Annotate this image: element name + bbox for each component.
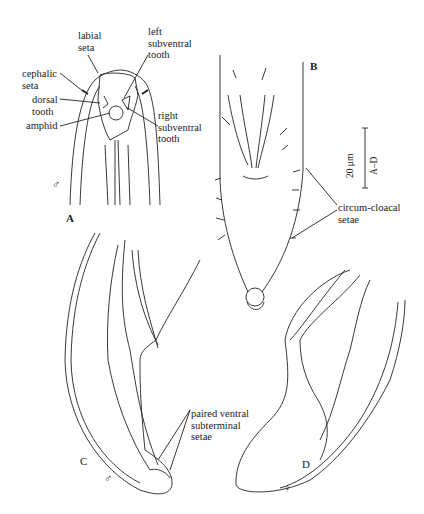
label-line: seta — [22, 80, 57, 92]
label-line: tooth — [32, 106, 58, 118]
label-right-subventral-tooth: right subventral tooth — [158, 110, 202, 145]
label-line: seta — [78, 42, 101, 54]
label-line: tooth — [158, 133, 202, 145]
male-symbol-a: ♂ — [52, 178, 60, 190]
label-paired-ventral-subterminal-setae: paired ventral subterminal setae — [191, 408, 249, 443]
label-line: left — [148, 26, 192, 38]
label-line: cephalic — [22, 68, 57, 80]
female-symbol-d: ♀ — [283, 482, 291, 494]
label-line: paired ventral — [191, 408, 249, 420]
label-circum-cloacal-setae: circum-cloacal setae — [338, 202, 400, 225]
label-line: tooth — [148, 49, 192, 61]
label-line: dorsal — [32, 94, 58, 106]
label-line: subventral — [148, 38, 192, 50]
label-line: subventral — [158, 122, 202, 134]
panel-a-head-drawing — [60, 55, 160, 205]
panel-label-c: C — [80, 455, 87, 467]
label-line: right — [158, 110, 202, 122]
label-dorsal-tooth: dorsal tooth — [32, 94, 58, 117]
scale-bar-range: A–D — [369, 157, 379, 175]
label-line: labial — [78, 30, 101, 42]
label-line: subterminal — [191, 420, 249, 432]
label-line: setae — [191, 431, 249, 443]
label-line: circum-cloacal — [338, 202, 400, 214]
label-amphid: amphid — [26, 120, 58, 132]
label-cephalic-seta: cephalic seta — [22, 68, 57, 91]
scale-bar-value: 20 μm — [345, 154, 355, 178]
panel-label-a: A — [66, 212, 74, 224]
label-labial-seta: labial seta — [78, 30, 101, 53]
male-symbol-c: ♂ — [104, 472, 112, 484]
label-left-subventral-tooth: left subventral tooth — [148, 26, 192, 61]
label-line: setae — [338, 214, 400, 226]
panel-label-d: D — [302, 458, 310, 470]
panel-label-b: B — [310, 60, 317, 72]
